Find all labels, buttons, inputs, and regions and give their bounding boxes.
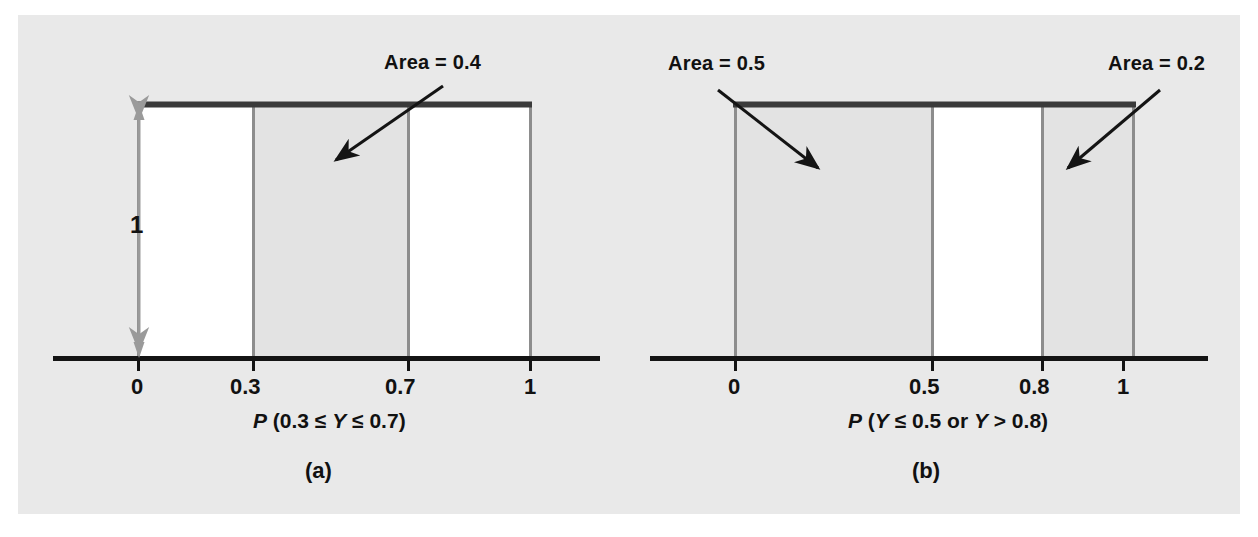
panel-a-area-label: Area = 0.4 [384, 51, 481, 74]
panel-b-axis-caption: P (Y ≤ 0.5 or Y > 0.8) [848, 409, 1048, 433]
panel-b-shaded-region-right [1042, 104, 1134, 358]
panel-b-letter: (b) [912, 458, 940, 484]
panel-b-caption-p: P [848, 409, 862, 432]
panel-a-tick-label-0: 0 [131, 374, 143, 400]
panel-a-caption-body: (0.3 ≤ [267, 409, 332, 432]
panel-a-region-0-to-0.3 [138, 104, 253, 358]
panel-b-tick-label-0: 0 [728, 374, 740, 400]
panel-a-height-label: 1 [130, 211, 143, 239]
panel-b-caption-y2: Y [974, 409, 988, 432]
panel-b-region-0.5-to-0.8 [932, 104, 1042, 358]
panel-a-tick-label-3: 1 [524, 374, 536, 400]
panel-b-shaded-region-left [735, 104, 932, 358]
panel-a-tick-label-1: 0.3 [230, 374, 261, 400]
panel-a-caption-y: Y [332, 409, 346, 432]
panel-b-tick-label-3: 1 [1117, 374, 1129, 400]
panel-b-tick-label-1: 0.5 [909, 374, 940, 400]
panel-a-caption-tail: ≤ 0.7) [346, 409, 405, 432]
panel-b-caption-y1: Y [875, 409, 889, 432]
panel-a-shaded-region [253, 104, 408, 358]
panel-b-area-label-right: Area = 0.2 [1108, 52, 1205, 75]
figure-root: Area = 0.4 1 0 0.3 0.7 1 P (0.3 ≤ Y ≤ 0.… [0, 0, 1258, 537]
panel-b-tick-label-2: 0.8 [1019, 374, 1050, 400]
panel-a-caption-p: P [253, 409, 267, 432]
panel-a-axis-caption: P (0.3 ≤ Y ≤ 0.7) [253, 409, 406, 433]
panel-b-caption-open: ( [862, 409, 875, 432]
panel-b-graphics [650, 90, 1208, 371]
panel-a-region-0.7-to-1 [408, 104, 530, 358]
chart-vector-layer [0, 0, 1258, 537]
panel-b-caption-mid: ≤ 0.5 or [889, 409, 974, 432]
panel-a-letter: (a) [305, 458, 332, 484]
panel-b-caption-tail: > 0.8) [988, 409, 1048, 432]
panel-a-tick-label-2: 0.7 [385, 374, 416, 400]
panel-b-area-label-left: Area = 0.5 [668, 52, 765, 75]
